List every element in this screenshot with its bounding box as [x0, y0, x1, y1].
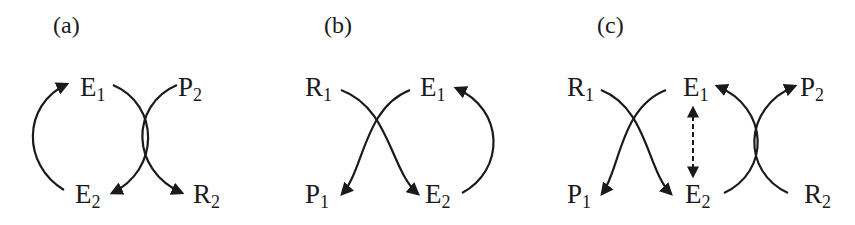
panel-c: (c) R1 E1 P2 P1 E2 R2	[567, 12, 831, 212]
node-b-e2: E2	[425, 179, 451, 212]
node-a-r2: R2	[193, 179, 220, 212]
panel-label-a: (a)	[53, 12, 80, 38]
arrow-c-r1-to-e2	[601, 90, 671, 194]
node-b-e1: E1	[420, 72, 446, 105]
node-c-r2: R2	[804, 179, 831, 212]
panel-label-c: (c)	[597, 12, 624, 38]
panel-label-b: (b)	[324, 12, 352, 38]
node-c-r1: R1	[567, 72, 594, 105]
node-a-e1: E1	[80, 72, 106, 105]
arrow-a-e2-to-e1	[33, 84, 67, 190]
arrow-c-e1-to-p1	[602, 90, 666, 194]
node-b-p1: P1	[305, 179, 329, 212]
node-c-p2: P2	[800, 72, 824, 105]
panel-b: (b) R1 E1 P1 E2	[305, 12, 494, 212]
arrow-b-e2-to-e1	[456, 88, 494, 193]
arrow-c-r2-to-p2	[754, 86, 795, 193]
reaction-diagram: (a) E1 P2 E2 R2 (b) R1 E1 P1 E2 (c) R1 E…	[0, 0, 855, 225]
node-b-r1: R1	[305, 72, 332, 105]
panel-a: (a) E1 P2 E2 R2	[33, 12, 220, 212]
node-a-p2: P2	[178, 72, 202, 105]
node-a-e2: E2	[75, 179, 101, 212]
arrow-b-e1-to-p1	[342, 90, 410, 194]
node-c-e1: E1	[683, 72, 709, 105]
arrow-c-e2-to-e1	[717, 86, 758, 193]
node-c-e2: E2	[685, 179, 711, 212]
node-c-p1: P1	[567, 179, 591, 212]
